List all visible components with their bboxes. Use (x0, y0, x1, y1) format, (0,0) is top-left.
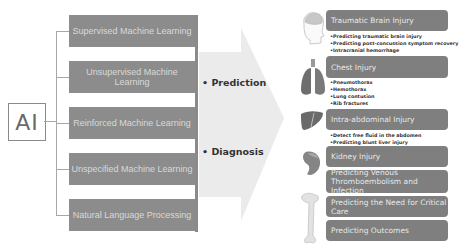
arrow-item-diagnosis: • Diagnosis (202, 146, 264, 157)
bullet-item: •Lung contusion (330, 93, 375, 100)
app-bullets-abdominal: •Detect free fluid in the abdomen •Predi… (330, 132, 421, 146)
ai-root-box: AI (8, 103, 46, 141)
bullet-item: •Detect free fluid in the abdomen (330, 132, 421, 139)
branch-line (56, 169, 69, 170)
femur-bone-icon (300, 192, 322, 244)
bullet-item: •Predicting post-concussion symptom reco… (330, 40, 458, 47)
bullet-item: •Predicting blunt liver injury (330, 139, 421, 146)
branch-line (56, 123, 69, 124)
app-title: Kidney Injury (331, 152, 380, 161)
app-box-kidney-injury: Kidney Injury (326, 146, 448, 167)
app-box-critical-care: Predicting the Need for Critical Care (326, 196, 448, 217)
kidney-icon (300, 150, 322, 178)
method-label: Unspecified Machine Learning (71, 164, 192, 174)
app-title: Chest Injury (331, 63, 376, 72)
branch-line (56, 31, 69, 32)
bullet-item: •Rib fractures (330, 100, 375, 107)
app-box-chest-injury: Chest Injury (326, 56, 448, 78)
lungs-icon (300, 58, 326, 98)
method-label: Reinforced Machine Learning (73, 118, 191, 128)
app-title: Predicting Venous Thromboembolism and In… (331, 168, 448, 195)
app-title: Predicting Outcomes (331, 226, 409, 235)
method-box-unspecified: Unspecified Machine Learning (69, 153, 195, 185)
branch-line (56, 77, 69, 78)
method-box-nlp: Natural Language Processing (69, 199, 195, 231)
bullet-item: •Pneumothorax (330, 79, 375, 86)
method-box-supervised: Supervised Machine Learning (69, 15, 195, 47)
bullet-item: •Predicting traumatic brain injury (330, 33, 458, 40)
app-title: Predicting the Need for Critical Care (331, 198, 448, 216)
method-label: Natural Language Processing (73, 210, 192, 220)
app-box-intra-abdominal-injury: Intra-abdominal Injury (326, 109, 448, 130)
app-box-traumatic-brain-injury: Traumatic Brain Injury (326, 10, 448, 31)
method-box-reinforced: Reinforced Machine Learning (69, 107, 195, 139)
method-label: Unsupervised Machine Learning (69, 67, 195, 87)
head-brain-icon (300, 10, 326, 46)
arrow-right-icon (199, 28, 285, 221)
method-group-bar (195, 15, 198, 232)
liver-icon (300, 110, 324, 132)
root-connector (44, 121, 56, 122)
method-label: Supervised Machine Learning (72, 26, 191, 36)
arrow-item-prediction: • Prediction (202, 77, 266, 88)
app-box-outcomes: Predicting Outcomes (326, 220, 448, 241)
branch-line (56, 215, 69, 216)
ai-root-label: AI (15, 110, 39, 135)
bullet-item: •Intracranial hemorrhage (330, 47, 458, 54)
app-title: Traumatic Brain Injury (331, 16, 414, 25)
method-box-unsupervised: Unsupervised Machine Learning (69, 61, 195, 93)
app-title: Intra-abdominal Injury (331, 115, 415, 124)
bullet-item: •Hemothorax (330, 86, 375, 93)
app-bullets-tbi: •Predicting traumatic brain injury •Pred… (330, 33, 458, 54)
app-box-vte-infection: Predicting Venous Thromboembolism and In… (326, 170, 448, 193)
app-bullets-chest: •Pneumothorax •Hemothorax •Lung contusio… (330, 79, 375, 107)
